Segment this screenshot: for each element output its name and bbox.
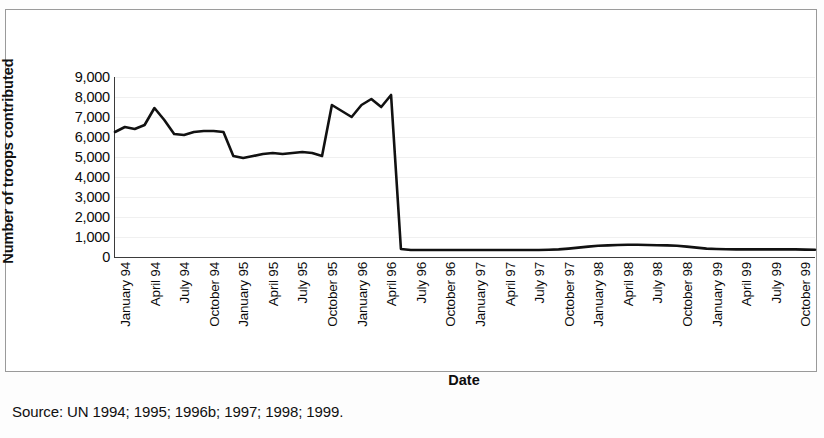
y-tick-label: 6,000 (48, 130, 110, 144)
y-axis-tick-labels: 9,0008,0007,0006,0005,0004,0003,0002,000… (48, 68, 110, 266)
x-tick-label: July 99 (770, 262, 783, 362)
x-tick-label: October 97 (563, 262, 576, 362)
x-tick-label: April 99 (740, 262, 753, 362)
y-tick-label: 4,000 (48, 170, 110, 184)
x-tick-label: October 99 (799, 262, 812, 362)
x-axis-title: Date (114, 372, 814, 388)
troops-line-series (115, 77, 815, 257)
x-axis-tick-labels: January 94April 94July 94October 94Janua… (114, 262, 814, 362)
x-tick-label: January 97 (474, 262, 487, 362)
x-tick-label: October 94 (208, 262, 221, 362)
x-tick-label: April 97 (504, 262, 517, 362)
figure-page: Number of troops contributed 9,0008,0007… (0, 0, 824, 438)
y-tick-label: 5,000 (48, 150, 110, 164)
y-tick-label: 2,000 (48, 210, 110, 224)
x-tick-label: January 94 (119, 262, 132, 362)
plot-area (114, 77, 815, 258)
x-tick-label: January 96 (356, 262, 369, 362)
y-tick-label: 3,000 (48, 190, 110, 204)
x-tick-label: January 99 (711, 262, 724, 362)
x-tick-label: October 96 (444, 262, 457, 362)
x-tick-label: April 95 (267, 262, 280, 362)
x-tick-label: July 95 (296, 262, 309, 362)
y-tick-label: 1,000 (48, 230, 110, 244)
x-tick-label: October 98 (681, 262, 694, 362)
y-tick-label: 0 (48, 250, 110, 264)
x-tick-label: October 95 (326, 262, 339, 362)
x-tick-label: January 95 (237, 262, 250, 362)
chart-plot-wrapper: 9,0008,0007,0006,0005,0004,0003,0002,000… (0, 0, 824, 438)
source-note: Source: UN 1994; 1995; 1996b; 1997; 1998… (12, 403, 343, 420)
series-polyline (115, 95, 815, 250)
x-tick-label: January 98 (592, 262, 605, 362)
x-tick-label: April 98 (622, 262, 635, 362)
x-tick-label: July 96 (415, 262, 428, 362)
y-tick-label: 8,000 (48, 90, 110, 104)
x-tick-label: July 94 (178, 262, 191, 362)
y-tick-label: 7,000 (48, 110, 110, 124)
x-tick-label: July 98 (651, 262, 664, 362)
x-tick-label: April 96 (385, 262, 398, 362)
y-tick-label: 9,000 (48, 70, 110, 84)
x-tick-label: April 94 (149, 262, 162, 362)
x-tick-label: July 97 (533, 262, 546, 362)
